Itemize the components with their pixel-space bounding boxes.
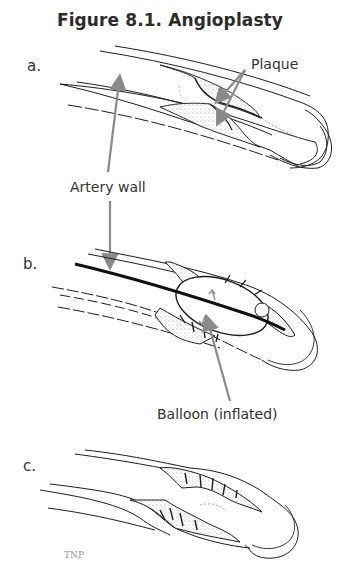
artery-diagram-b xyxy=(52,249,317,370)
artery-diagram-c xyxy=(40,450,298,558)
artery-wall-arrow-up xyxy=(108,82,119,172)
angioplasty-illustration xyxy=(0,0,340,584)
artery-diagram-a xyxy=(60,46,332,168)
